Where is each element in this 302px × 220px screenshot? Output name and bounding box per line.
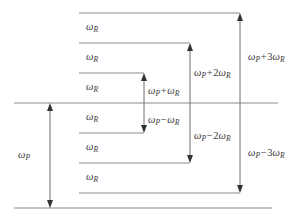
omega-glyph: ω: [273, 147, 281, 158]
omega-glyph: ω: [273, 51, 281, 62]
arrowhead-up-omega-p-plus-2r: [187, 43, 193, 51]
arrow-omega-p-minus-2r: [187, 103, 193, 163]
omega-glyph: ω: [86, 171, 94, 182]
arrow-omega-p-minus-r: [141, 103, 147, 133]
subscript-r: R: [226, 134, 231, 143]
arrow-omega-p-minus-3r: [237, 103, 243, 193]
subscript-r: R: [226, 71, 231, 80]
arrowhead-down-omega-p-minus-2r: [187, 155, 193, 163]
subscript-r: R: [280, 55, 285, 64]
arrowhead-up-omega-p-plus-3r: [237, 13, 243, 21]
gap-label-omega-r-1: ωR: [86, 22, 98, 34]
label-omega-p-plus-2r: ωP+2ωR: [194, 68, 231, 80]
gap-label-omega-r-5: ωR: [86, 142, 98, 154]
omega-glyph: ω: [194, 67, 202, 78]
subscript-p: P: [26, 153, 31, 162]
omega-glyph: ω: [248, 51, 256, 62]
omega-glyph: ω: [167, 85, 175, 96]
label-omega-p-plus-r: ωP+ωR: [148, 86, 179, 98]
energy-level-lines: [14, 13, 278, 208]
omega-glyph: ω: [148, 85, 156, 96]
gap-label-omega-r-6: ωR: [86, 172, 98, 184]
energy-level-diagram: ωR ωR ωR ωR ωR ωR ωP ωP+ωR ωP−ωR ωP+2ωR …: [0, 0, 302, 220]
omega-glyph: ω: [219, 130, 227, 141]
subscript-r: R: [280, 151, 285, 160]
subscript-r: R: [94, 85, 99, 94]
omega-glyph: ω: [86, 51, 94, 62]
arrowhead-down-omega-p-minus-3r: [237, 185, 243, 193]
gap-label-omega-r-4: ωR: [86, 112, 98, 124]
arrowhead-down-omega-p: [47, 200, 53, 208]
label-omega-p-plus-3r: ωP+3ωR: [248, 52, 285, 64]
subscript-r: R: [94, 25, 99, 34]
arrow-omega-p-plus-3r: [237, 13, 243, 103]
label-omega-p-minus-2r: ωP−2ωR: [194, 131, 231, 143]
omega-glyph: ω: [86, 111, 94, 122]
label-omega-p-minus-3r: ωP−3ωR: [248, 148, 285, 160]
subscript-r: R: [94, 145, 99, 154]
arrowhead-down-omega-p-minus-r: [141, 125, 147, 133]
omega-glyph: ω: [86, 141, 94, 152]
arrow-omega-p: [47, 103, 53, 208]
subscript-r: R: [175, 118, 180, 127]
subscript-r: R: [175, 89, 180, 98]
omega-glyph: ω: [86, 81, 94, 92]
subscript-r: R: [94, 175, 99, 184]
omega-glyph: ω: [148, 114, 156, 125]
gap-label-omega-r-2: ωR: [86, 52, 98, 64]
subscript-r: R: [94, 115, 99, 124]
subscript-r: R: [94, 55, 99, 64]
omega-glyph: ω: [167, 114, 175, 125]
label-omega-p: ωP: [18, 150, 30, 162]
arrowhead-up-omega-p: [47, 103, 53, 111]
arrow-omega-p-plus-2r: [187, 43, 193, 103]
omega-glyph: ω: [194, 130, 202, 141]
diagram-canvas: [0, 0, 302, 220]
arrow-omega-p-plus-r: [141, 73, 147, 103]
label-omega-p-minus-r: ωP−ωR: [148, 115, 179, 127]
omega-glyph: ω: [18, 149, 26, 160]
omega-glyph: ω: [219, 67, 227, 78]
omega-glyph: ω: [248, 147, 256, 158]
omega-glyph: ω: [86, 21, 94, 32]
arrowhead-up-omega-p-plus-r: [141, 73, 147, 81]
gap-label-omega-r-3: ωR: [86, 82, 98, 94]
